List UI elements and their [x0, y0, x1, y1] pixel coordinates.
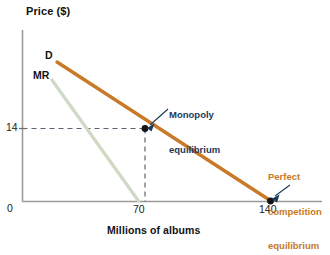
perfect-competition-annotation-line-1: Perfect: [268, 171, 322, 183]
perfect-competition-annotation-line-2: competition: [268, 206, 322, 218]
y-axis-tick-label-0: 0: [7, 202, 13, 214]
y-axis-title: Price ($): [26, 5, 70, 17]
x-axis-title: Millions of albums: [107, 224, 200, 236]
y-axis-tick-label-14: 14: [6, 121, 18, 133]
marginal-revenue-curve: [52, 80, 139, 201]
x-axis-tick-label-70: 70: [133, 203, 145, 215]
demand-curve-label: D: [45, 49, 53, 61]
perfect-competition-annotation: Perfect competition equilibrium: [268, 148, 322, 255]
monopoly-annotation-line-1: Monopoly: [169, 109, 220, 121]
monopoly-annotation-arrow-line: [150, 109, 168, 125]
monopoly-equilibrium-annotation: Monopoly equilibrium: [169, 86, 220, 178]
marginal-revenue-curve-label: MR: [33, 69, 49, 81]
perfect-competition-annotation-line-3: equilibrium: [268, 240, 322, 252]
monopoly-annotation-line-2: equilibrium: [169, 144, 220, 156]
monopoly-equilibrium-point: [142, 125, 149, 132]
